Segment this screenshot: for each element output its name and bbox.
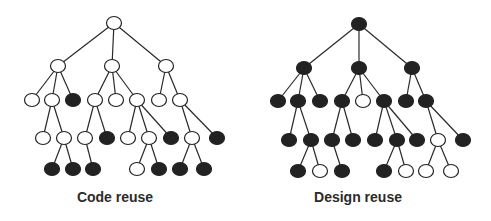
reused-node: [291, 95, 306, 108]
new-node: [142, 132, 157, 145]
reused-node: [282, 134, 297, 147]
new-node: [78, 132, 93, 145]
new-node: [152, 94, 167, 107]
reused-node: [410, 134, 425, 147]
reused-node: [271, 95, 286, 108]
new-node: [51, 60, 66, 73]
reused-node: [377, 165, 392, 178]
new-node: [130, 163, 145, 176]
new-node: [173, 94, 188, 107]
reused-node: [335, 165, 350, 178]
reused-node: [399, 95, 414, 108]
tree-nodes: [25, 17, 225, 176]
reused-node: [325, 134, 340, 147]
reused-node: [152, 163, 167, 176]
reused-node: [456, 134, 471, 147]
reused-node: [346, 134, 361, 147]
reused-node: [291, 165, 306, 178]
new-node: [107, 17, 122, 30]
tree-nodes: [271, 18, 471, 178]
reused-node: [304, 134, 319, 147]
new-node: [313, 165, 328, 178]
reused-node: [368, 134, 383, 147]
reused-node: [210, 132, 225, 145]
reused-node: [352, 62, 367, 75]
tree-edge: [304, 24, 359, 68]
design-reuse-caption: Design reuse: [278, 189, 438, 205]
reused-node: [66, 163, 81, 176]
tree-edge: [359, 24, 412, 68]
reused-node: [390, 134, 405, 147]
new-node: [444, 165, 459, 178]
reused-node: [352, 18, 367, 31]
new-node: [36, 132, 51, 145]
new-node: [185, 132, 200, 145]
reused-node: [377, 95, 392, 108]
new-node: [159, 60, 174, 73]
reused-node: [419, 95, 434, 108]
new-node: [45, 94, 60, 107]
reused-node: [164, 132, 179, 145]
reused-node: [86, 163, 101, 176]
reused-node: [313, 95, 328, 108]
reused-node: [335, 95, 350, 108]
new-node: [130, 94, 145, 107]
new-node: [431, 134, 446, 147]
new-node: [57, 132, 72, 145]
tree-edge: [114, 23, 166, 66]
reused-node: [197, 163, 212, 176]
new-node: [25, 94, 40, 107]
tree-edges: [278, 24, 463, 171]
new-node: [121, 132, 136, 145]
new-node: [356, 95, 371, 108]
reused-node: [173, 163, 188, 176]
reused-node: [100, 132, 115, 145]
new-node: [88, 94, 103, 107]
tree-edge: [58, 23, 114, 66]
new-node: [419, 165, 434, 178]
design-reuse-tree: [271, 18, 471, 178]
reuse-comparison-diagram: [0, 0, 491, 221]
code-reuse-tree: [25, 17, 225, 176]
code-reuse-caption: Code reuse: [35, 189, 195, 205]
reused-node: [405, 62, 420, 75]
new-node: [105, 60, 120, 73]
new-node: [109, 94, 124, 107]
reused-node: [45, 163, 60, 176]
tree-edge: [137, 100, 171, 138]
reused-node: [66, 94, 81, 107]
new-node: [399, 165, 414, 178]
reused-node: [297, 62, 312, 75]
tree-edges: [32, 23, 217, 169]
